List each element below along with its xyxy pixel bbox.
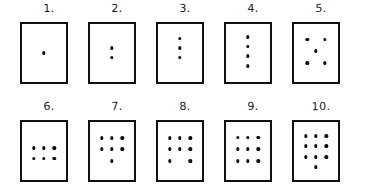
dot — [110, 160, 113, 164]
card-border — [156, 22, 204, 84]
dot — [246, 159, 249, 163]
card-label: 4. — [219, 1, 287, 15]
card-dots — [226, 24, 270, 82]
dot-card-10[interactable]: 10. — [287, 98, 355, 196]
dot — [110, 56, 113, 60]
dot — [256, 147, 259, 151]
dot — [100, 147, 103, 151]
dot — [305, 38, 308, 42]
card-border — [88, 22, 136, 84]
card-border — [156, 120, 204, 182]
dot — [246, 147, 249, 151]
card-dots — [226, 122, 270, 180]
dot — [246, 55, 249, 59]
dot — [314, 134, 317, 138]
dot-card-6[interactable]: 6. — [15, 98, 83, 196]
card-dots — [90, 24, 134, 82]
dot-card-9[interactable]: 9. — [219, 98, 287, 196]
dot — [236, 147, 239, 151]
dot — [110, 46, 113, 50]
dot — [178, 56, 181, 60]
card-dots — [294, 122, 338, 180]
card-dots — [158, 122, 202, 180]
card-dots — [22, 122, 66, 180]
dot — [52, 146, 55, 150]
dot — [120, 147, 123, 151]
dot-card-sheet: 1.2.3.4.5. 6.7.8.9.10. — [0, 0, 371, 196]
dot — [305, 61, 308, 65]
dot-card-4[interactable]: 4. — [219, 0, 287, 98]
dot — [324, 134, 327, 138]
card-dots — [90, 122, 134, 180]
card-row-bottom: 6.7.8.9.10. — [0, 98, 371, 196]
dot — [256, 136, 259, 140]
dot — [246, 45, 249, 49]
dot — [304, 155, 307, 159]
dot — [236, 136, 239, 140]
dot-card-1[interactable]: 1. — [15, 0, 83, 98]
dot — [52, 157, 55, 161]
card-border — [20, 120, 68, 182]
card-label: 6. — [15, 99, 83, 113]
dot — [323, 38, 326, 42]
dot — [42, 146, 45, 150]
dot — [314, 155, 317, 159]
dot — [323, 61, 326, 65]
card-dots — [158, 24, 202, 82]
dot-card-7[interactable]: 7. — [83, 98, 151, 196]
card-label: 3. — [151, 1, 219, 15]
dot — [168, 160, 171, 164]
card-label: 9. — [219, 99, 287, 113]
dot — [246, 64, 249, 68]
dot — [178, 136, 181, 140]
dot — [32, 157, 35, 161]
dot — [314, 165, 317, 169]
card-label: 2. — [83, 1, 151, 15]
dot — [246, 35, 249, 39]
dot — [188, 136, 191, 140]
dot-card-2[interactable]: 2. — [83, 0, 151, 98]
dot — [42, 157, 45, 161]
dot — [32, 146, 35, 150]
dot — [110, 136, 113, 140]
dot — [100, 136, 103, 140]
dot-card-5[interactable]: 5. — [287, 0, 355, 98]
card-border — [88, 120, 136, 182]
dot — [178, 37, 181, 41]
card-label: 10. — [287, 99, 355, 113]
card-row-top: 1.2.3.4.5. — [0, 0, 371, 98]
card-dots — [22, 24, 66, 82]
dot — [188, 147, 191, 151]
card-border — [292, 22, 340, 84]
dot — [168, 147, 171, 151]
card-border — [20, 22, 68, 84]
card-label: 8. — [151, 99, 219, 113]
card-border — [292, 120, 340, 182]
dot — [246, 136, 249, 140]
dot-card-8[interactable]: 8. — [151, 98, 219, 196]
card-label: 1. — [15, 1, 83, 15]
card-label: 7. — [83, 99, 151, 113]
dot — [168, 136, 171, 140]
dot-card-3[interactable]: 3. — [151, 0, 219, 98]
dot — [314, 144, 317, 148]
dot — [110, 147, 113, 151]
dot — [304, 144, 307, 148]
dot — [324, 155, 327, 159]
card-dots — [294, 24, 338, 82]
dot — [314, 49, 317, 53]
dot — [236, 159, 239, 163]
dot — [324, 144, 327, 148]
dot — [188, 160, 191, 164]
dot — [42, 51, 45, 55]
card-label: 5. — [287, 1, 355, 15]
card-border — [224, 120, 272, 182]
dot — [304, 134, 307, 138]
card-border — [224, 22, 272, 84]
dot — [178, 46, 181, 50]
dot — [120, 136, 123, 140]
dot — [256, 159, 259, 163]
dot — [178, 147, 181, 151]
